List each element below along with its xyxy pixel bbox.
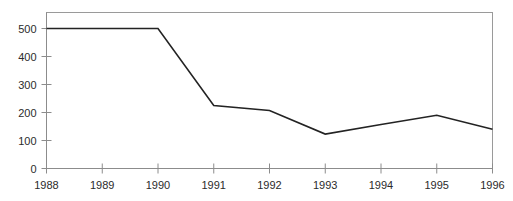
x-tick-label: 1991 bbox=[202, 179, 226, 191]
x-tick-label: 1988 bbox=[34, 179, 58, 191]
x-axis-tick-labels: 198819891990199119921993199419951996 bbox=[34, 179, 504, 191]
x-tick-label: 1995 bbox=[425, 179, 449, 191]
y-tick-label: 400 bbox=[18, 51, 36, 63]
x-tick-label: 1990 bbox=[146, 179, 170, 191]
x-tick-label: 1996 bbox=[480, 179, 504, 191]
y-tick-label: 100 bbox=[18, 135, 36, 147]
line-chart: 0100200300400500 19881989199019911992199… bbox=[0, 0, 513, 201]
y-tick-label: 0 bbox=[30, 163, 36, 175]
x-tick-label: 1993 bbox=[313, 179, 337, 191]
y-tick-label: 200 bbox=[18, 107, 36, 119]
y-axis-tick-labels: 0100200300400500 bbox=[18, 23, 36, 175]
x-tick-label: 1989 bbox=[90, 179, 114, 191]
chart-canvas: 0100200300400500 19881989199019911992199… bbox=[0, 0, 513, 201]
data-series-line bbox=[47, 29, 493, 135]
x-tick-label: 1994 bbox=[369, 179, 393, 191]
x-tick-label: 1992 bbox=[257, 179, 281, 191]
plot-frame bbox=[47, 13, 493, 169]
y-tick-label: 300 bbox=[18, 79, 36, 91]
y-tick-label: 500 bbox=[18, 23, 36, 35]
